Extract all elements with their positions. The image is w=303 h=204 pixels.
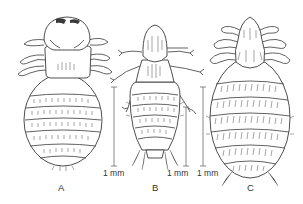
illustration-canvas <box>0 0 303 204</box>
louse-illustration-figure: 1 mm 1 mm 1 mm A B C <box>0 0 303 204</box>
scale-bar-3 <box>200 87 206 166</box>
panel-label-b: B <box>152 182 158 193</box>
specimen-c-drawing <box>206 17 294 186</box>
specimen-b-drawing <box>110 25 204 170</box>
scale-bar-1-label: 1 mm <box>103 168 124 178</box>
panel-label-c: C <box>247 182 254 193</box>
scale-bar-1 <box>111 87 117 166</box>
scale-bar-2-label: 1 mm <box>167 168 188 178</box>
specimen-a-drawing <box>18 17 112 171</box>
scale-bar-3-label: 1 mm <box>197 168 218 178</box>
panel-label-a: A <box>58 182 64 193</box>
scale-bar-2 <box>183 107 189 166</box>
